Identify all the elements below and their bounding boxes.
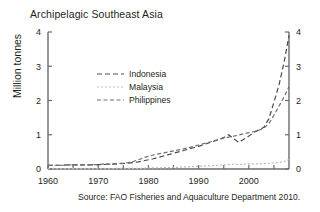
y-tick-label-left: 3 — [36, 62, 41, 72]
y-tick-label-left: 0 — [36, 164, 41, 174]
chart-source-note: Source: FAO Fisheries and Aquaculture De… — [78, 192, 300, 202]
x-tick-label: 1980 — [138, 176, 158, 186]
chart-figure: Archipelagic Southeast Asia Million tonn… — [0, 0, 320, 212]
chart-axes: 001122334419601970198019902000 — [36, 27, 301, 186]
legend-label-philippines: Philippines — [129, 95, 171, 105]
legend-label-indonesia: Indonesia — [129, 69, 166, 79]
x-tick-label: 1990 — [189, 176, 209, 186]
y-tick-label-right: 0 — [296, 164, 301, 174]
y-tick-label-left: 4 — [36, 27, 41, 37]
y-tick-label-right: 3 — [296, 62, 301, 72]
line-chart-plot: 001122334419601970198019902000 Indonesia… — [0, 0, 320, 212]
y-tick-label-right: 1 — [296, 130, 301, 140]
x-tick-label: 1960 — [38, 176, 58, 186]
y-tick-label-right: 4 — [296, 27, 301, 37]
chart-legend: IndonesiaMalaysiaPhilippines — [97, 69, 171, 105]
x-tick-label: 1970 — [88, 176, 108, 186]
y-tick-label-left: 2 — [36, 96, 41, 106]
legend-label-malaysia: Malaysia — [129, 82, 163, 92]
y-tick-label-right: 2 — [296, 96, 301, 106]
x-tick-label: 2000 — [239, 176, 259, 186]
y-tick-label-left: 1 — [36, 130, 41, 140]
series-line-malaysia — [48, 159, 289, 168]
